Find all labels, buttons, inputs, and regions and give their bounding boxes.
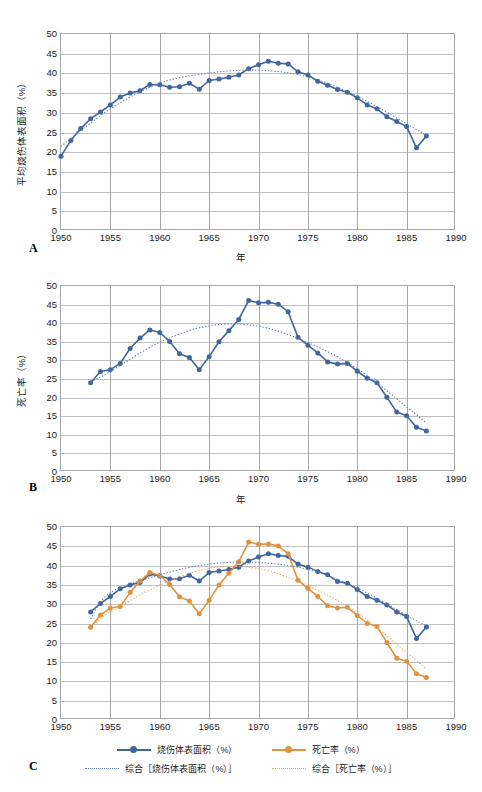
y-axis-tick: 15 (46, 167, 57, 177)
data-point (108, 606, 113, 611)
data-point (217, 582, 222, 587)
legend-item[interactable]: 烧伤体表面积（%） (117, 743, 237, 756)
data-point (207, 570, 212, 575)
x-axis-tick: 1970 (248, 722, 269, 732)
data-point (236, 72, 241, 77)
data-point (394, 656, 399, 661)
data-point (384, 395, 389, 400)
data-point (365, 376, 370, 381)
y-axis-tick: 10 (46, 187, 57, 197)
data-point (207, 354, 212, 359)
x-axis-tick: 1955 (100, 474, 121, 484)
x-axis-tick: 1975 (297, 474, 318, 484)
marker-dot-icon (130, 746, 137, 753)
x-axis-tick: 1980 (347, 722, 368, 732)
x-axis-tick: 1950 (50, 233, 71, 243)
data-point (286, 309, 291, 314)
data-point (177, 351, 182, 356)
legend-item[interactable]: 综合［烧伤体表面积（%）］ (85, 762, 237, 775)
y-axis-tick: 20 (46, 147, 57, 157)
panel-c: 0510152025303540455019501955196019651970… (0, 515, 482, 792)
x-axis-tick: 1960 (149, 233, 170, 243)
chart-c: 0510152025303540455019501955196019651970… (0, 515, 482, 792)
series-layer (61, 34, 456, 231)
data-point (384, 114, 389, 119)
x-axis-tick: 1985 (396, 233, 417, 243)
y-axis-label-b: 死亡率（%） (17, 349, 27, 407)
data-point (207, 598, 212, 603)
y-axis-tick: 15 (46, 411, 57, 421)
trend-line (61, 70, 426, 146)
dotted-line-icon (85, 768, 119, 769)
data-point (365, 594, 370, 599)
data-point (246, 558, 251, 563)
x-axis-tick: 1950 (50, 474, 71, 484)
data-point (167, 577, 172, 582)
data-point (147, 570, 152, 575)
data-point (226, 75, 231, 80)
x-axis-tick: 1955 (100, 233, 121, 243)
data-point (256, 542, 261, 547)
panel-a: 0510152025303540455019501955196019651970… (0, 0, 482, 264)
data-point (217, 76, 222, 81)
y-axis-tick: 35 (46, 88, 57, 98)
y-axis-tick: 25 (46, 128, 57, 138)
y-axis-tick: 45 (46, 49, 57, 59)
legend-swatch-icon (272, 745, 306, 755)
data-point (236, 317, 241, 322)
panel-letter-a: A (29, 241, 38, 256)
data-point (266, 551, 271, 556)
data-point (167, 582, 172, 587)
data-point (98, 369, 103, 374)
data-point (59, 154, 64, 159)
data-point (167, 339, 172, 344)
data-point (197, 579, 202, 584)
chart-b: 0510152025303540455019501955196019651970… (0, 264, 482, 515)
data-point (217, 339, 222, 344)
data-point (88, 609, 93, 614)
data-point (157, 330, 162, 335)
data-point (384, 640, 389, 645)
legend-item[interactable]: 综合［死亡率（%）］ (272, 762, 397, 775)
legend-label: 烧伤体表面积（%） (157, 743, 237, 756)
data-point (98, 613, 103, 618)
data-point (187, 599, 192, 604)
x-axis-tick: 1965 (199, 722, 220, 732)
y-axis-tick: 50 (46, 522, 57, 532)
data-point (424, 429, 429, 434)
y-axis-tick: 40 (46, 69, 57, 79)
x-axis-tick: 1965 (199, 474, 220, 484)
data-point (286, 551, 291, 556)
y-axis-tick: 45 (46, 300, 57, 310)
data-point (266, 541, 271, 546)
data-point (88, 116, 93, 121)
data-point (276, 302, 281, 307)
data-point (276, 553, 281, 558)
data-point (325, 359, 330, 364)
data-point (147, 327, 152, 332)
data-point (177, 594, 182, 599)
y-axis-tick: 40 (46, 318, 57, 328)
data-point (335, 362, 340, 367)
data-point (177, 84, 182, 89)
data-point (167, 85, 172, 90)
plot-area-b: 0510152025303540455019501955196019651970… (60, 285, 455, 471)
legend-item[interactable]: 死亡率（%） (272, 743, 365, 756)
x-axis-tick: 1990 (445, 722, 466, 732)
data-point (128, 91, 133, 96)
data-point (108, 594, 113, 599)
data-point (197, 87, 202, 92)
data-point (335, 606, 340, 611)
data-point (266, 59, 271, 64)
data-point (226, 571, 231, 576)
series-layer (61, 286, 456, 472)
data-point (187, 81, 192, 86)
y-axis-tick: 5 (52, 449, 57, 459)
data-point (266, 300, 271, 305)
data-point (256, 555, 261, 560)
data-point (296, 578, 301, 583)
y-axis-tick: 50 (46, 281, 57, 291)
data-point (414, 636, 419, 641)
data-point (128, 346, 133, 351)
legend-swatch-icon (85, 764, 119, 774)
